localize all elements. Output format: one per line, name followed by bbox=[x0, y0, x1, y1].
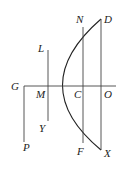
label-X: X bbox=[103, 147, 112, 159]
label-D: D bbox=[103, 13, 112, 25]
label-G: G bbox=[11, 80, 19, 92]
label-N: N bbox=[75, 13, 84, 25]
label-L: L bbox=[37, 42, 44, 54]
parabola-diagram: D N L G M C O Y F X P bbox=[0, 0, 121, 177]
parabola-curve bbox=[63, 19, 102, 150]
label-Y: Y bbox=[39, 122, 47, 134]
label-F: F bbox=[76, 145, 84, 157]
label-P: P bbox=[22, 141, 30, 153]
label-O: O bbox=[104, 88, 112, 100]
label-C: C bbox=[74, 88, 82, 100]
label-M: M bbox=[35, 88, 46, 100]
